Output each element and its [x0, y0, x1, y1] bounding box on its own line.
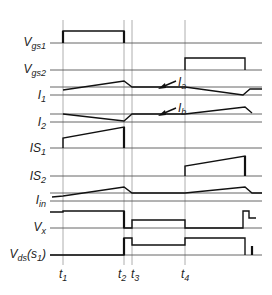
time-labels: t1 t2 t3 t4 [59, 267, 189, 283]
label-iin: Iin [36, 193, 46, 209]
annotations: Ia Ib [158, 75, 186, 117]
waveform-vds [50, 238, 245, 255]
label-i1: I1 [38, 88, 46, 104]
waveform-is2 [185, 156, 245, 176]
waveform-vx [50, 211, 256, 228]
signal-baselines [50, 43, 262, 255]
timing-diagram: Ia Ib Vgs1 Vgs2 I1 I2 IS1 IS2 Iin Vx Vds… [0, 0, 272, 295]
waveform-vgs2 [185, 58, 245, 70]
arrowhead-ib-icon [158, 110, 166, 116]
label-t3: t3 [131, 267, 139, 283]
label-vx: Vx [33, 220, 46, 236]
waveform-is1 [63, 127, 124, 148]
label-i2: I2 [38, 115, 46, 131]
label-vds: Vds(s1) [9, 247, 46, 263]
signal-labels: Vgs1 Vgs2 I1 I2 IS1 IS2 Iin Vx Vds(s1) [9, 35, 46, 263]
label-t2: t2 [118, 267, 126, 283]
label-vgs1: Vgs1 [23, 35, 46, 51]
waveforms [50, 31, 262, 255]
label-t1: t1 [59, 267, 67, 283]
waveform-vgs1 [63, 31, 124, 43]
label-is1: IS1 [30, 141, 46, 157]
label-t4: t4 [181, 267, 189, 283]
label-vgs2: Vgs2 [23, 62, 46, 78]
waveform-iin [52, 187, 262, 197]
label-is2: IS2 [30, 169, 46, 185]
arrowhead-ia-icon [158, 83, 166, 89]
